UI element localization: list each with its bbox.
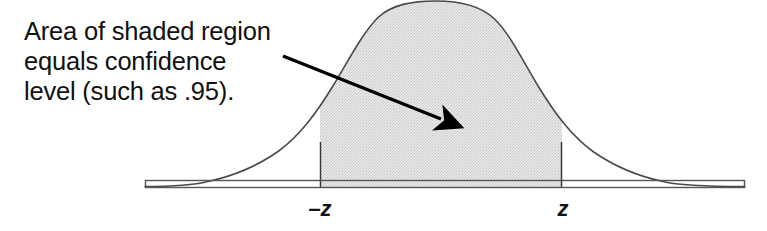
annotation-line-2: equals confidence [24, 46, 294, 76]
annotation-text-block: Area of shaded region equals confidence … [24, 16, 294, 106]
axis-label-upper-bound: z [533, 196, 593, 222]
axis-label-lower-bound: –z [286, 196, 354, 222]
annotation-line-1: Area of shaded region [24, 16, 294, 46]
normal-curve-diagram: Area of shaded region equals confidence … [0, 0, 767, 231]
annotation-line-3: level (such as .95). [24, 76, 294, 106]
